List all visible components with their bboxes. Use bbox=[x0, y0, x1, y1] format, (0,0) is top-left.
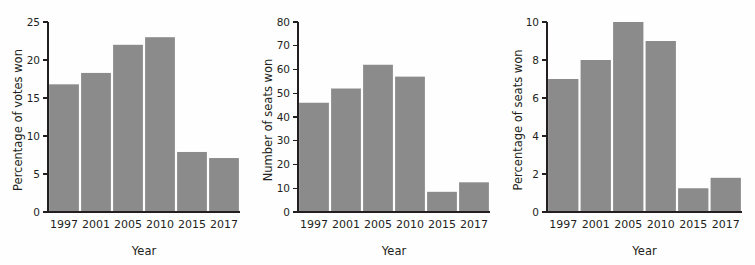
bar-1997 bbox=[299, 103, 329, 212]
xtick-label-2017: 2017 bbox=[712, 218, 740, 231]
ytick-label: 0 bbox=[283, 206, 290, 218]
bar-2001 bbox=[581, 60, 611, 212]
chart-3-yaxis-title: Percentage of seats won bbox=[511, 49, 525, 190]
bar-2001 bbox=[81, 73, 111, 212]
bar-2017 bbox=[209, 158, 239, 212]
ytick-label: 10 bbox=[27, 130, 40, 142]
bar-2015 bbox=[177, 152, 207, 212]
ytick-label: 30 bbox=[277, 134, 290, 146]
bar-2015 bbox=[678, 188, 708, 212]
xtick-label-2001: 2001 bbox=[582, 218, 610, 231]
ytick-label: 4 bbox=[532, 130, 539, 142]
chart-2-yaxis-title: Number of seats won bbox=[261, 59, 275, 182]
chart-3-yticks: 0246810 bbox=[526, 16, 547, 218]
bar-2010 bbox=[395, 77, 425, 212]
xtick-label-2015: 2015 bbox=[679, 218, 707, 231]
xtick-label-1997: 1997 bbox=[549, 218, 577, 231]
xtick-label-2001: 2001 bbox=[332, 218, 360, 231]
xtick-label-2010: 2010 bbox=[146, 218, 174, 231]
ytick-label: 0 bbox=[33, 206, 40, 218]
chart-1-svg: 0510152025 199720012005201020152017 Year… bbox=[0, 0, 252, 265]
xtick-label-2005: 2005 bbox=[364, 218, 392, 231]
ytick-label: 6 bbox=[532, 92, 539, 104]
ytick-label: 40 bbox=[277, 111, 290, 123]
bar-1997 bbox=[49, 84, 79, 212]
chart-2-yticks: 01020304050607080 bbox=[277, 16, 298, 218]
ytick-label: 20 bbox=[277, 158, 290, 170]
chart-panel-seats-count: 01020304050607080 1997200120052010201520… bbox=[252, 0, 502, 265]
chart-3-xaxis-title: Year bbox=[631, 244, 657, 258]
chart-1-yaxis-title: Percentage of votes won bbox=[11, 49, 25, 191]
ytick-label: 0 bbox=[532, 206, 539, 218]
bar-1997 bbox=[548, 79, 578, 212]
chart-3-xticks: 199720012005201020152017 bbox=[549, 218, 740, 231]
ytick-label: 80 bbox=[277, 16, 290, 28]
bar-2017 bbox=[711, 178, 741, 212]
bar-chart-figure: 0510152025 199720012005201020152017 Year… bbox=[0, 0, 755, 265]
xtick-label-2017: 2017 bbox=[460, 218, 488, 231]
ytick-label: 50 bbox=[277, 87, 290, 99]
xtick-label-2010: 2010 bbox=[396, 218, 424, 231]
chart-1-yticks: 0510152025 bbox=[27, 16, 48, 218]
xtick-label-1997: 1997 bbox=[300, 218, 328, 231]
chart-1-xaxis-title: Year bbox=[131, 244, 157, 258]
ytick-label: 2 bbox=[532, 168, 539, 180]
chart-3-svg: 0246810 199720012005201020152017 Year Pe… bbox=[502, 0, 755, 265]
chart-1-bars bbox=[49, 37, 239, 212]
chart-panel-seats-percentage: 0246810 199720012005201020152017 Year Pe… bbox=[502, 0, 755, 265]
ytick-label: 60 bbox=[277, 63, 290, 75]
bar-2017 bbox=[459, 182, 489, 212]
chart-3-bars bbox=[548, 22, 741, 212]
xtick-label-2001: 2001 bbox=[82, 218, 110, 231]
chart-panel-votes-percentage: 0510152025 199720012005201020152017 Year… bbox=[0, 0, 252, 265]
ytick-label: 20 bbox=[27, 54, 40, 66]
xtick-label-2017: 2017 bbox=[210, 218, 238, 231]
ytick-label: 25 bbox=[27, 16, 40, 28]
ytick-label: 15 bbox=[27, 92, 40, 104]
bar-2010 bbox=[646, 41, 676, 212]
chart-2-bars bbox=[299, 65, 489, 212]
bar-2005 bbox=[363, 65, 393, 212]
xtick-label-2005: 2005 bbox=[114, 218, 142, 231]
ytick-label: 8 bbox=[532, 54, 539, 66]
ytick-label: 5 bbox=[33, 168, 40, 180]
bar-2015 bbox=[427, 192, 457, 212]
chart-1-xticks: 199720012005201020152017 bbox=[50, 218, 238, 231]
xtick-label-2015: 2015 bbox=[178, 218, 206, 231]
bar-2005 bbox=[613, 22, 643, 212]
bar-2010 bbox=[145, 37, 175, 212]
ytick-label: 10 bbox=[277, 182, 290, 194]
ytick-label: 10 bbox=[526, 16, 539, 28]
xtick-label-1997: 1997 bbox=[50, 218, 78, 231]
ytick-label: 70 bbox=[277, 39, 290, 51]
xtick-label-2005: 2005 bbox=[614, 218, 642, 231]
chart-2-xaxis-title: Year bbox=[381, 244, 407, 258]
chart-2-svg: 01020304050607080 1997200120052010201520… bbox=[252, 0, 502, 265]
chart-2-xticks: 199720012005201020152017 bbox=[300, 218, 488, 231]
xtick-label-2010: 2010 bbox=[647, 218, 675, 231]
bar-2005 bbox=[113, 45, 143, 212]
xtick-label-2015: 2015 bbox=[428, 218, 456, 231]
bar-2001 bbox=[331, 89, 361, 213]
